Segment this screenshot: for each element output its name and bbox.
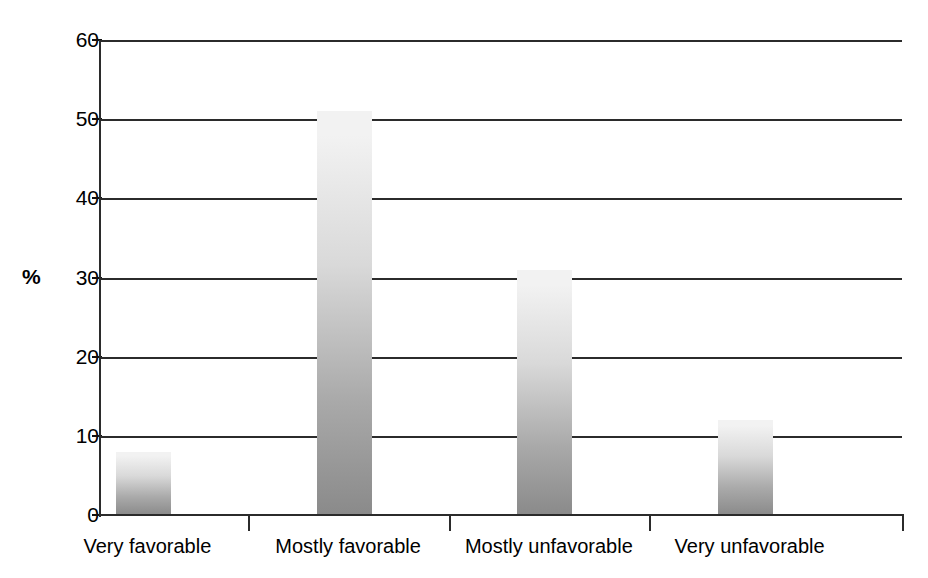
x-axis-tick-mark — [449, 516, 451, 531]
y-axis-unit-label: % — [22, 266, 41, 288]
x-axis-tick-mark — [649, 516, 651, 531]
x-axis-end-tick — [902, 516, 904, 531]
x-axis-category-label: Mostly favorable — [238, 534, 458, 558]
bar-chart: % 6050403020100 Very favorableMostly fav… — [0, 0, 928, 578]
gridline — [99, 357, 902, 359]
gridline — [99, 40, 902, 42]
bar — [517, 270, 572, 515]
gridline — [99, 119, 902, 121]
x-axis-category-label: Very favorable — [37, 534, 257, 558]
x-axis-category-label: Very unfavorable — [640, 534, 860, 558]
plot-area — [99, 40, 902, 515]
gridline — [99, 198, 902, 200]
x-axis-category-label: Mostly unfavorable — [439, 534, 659, 558]
y-axis: 6050403020100 — [45, 0, 99, 578]
x-axis-tick-mark — [248, 516, 250, 531]
bar — [317, 111, 372, 515]
gridline — [99, 278, 902, 280]
bar — [718, 420, 773, 515]
x-axis-line — [99, 514, 904, 516]
gridline — [99, 436, 902, 438]
bar — [116, 452, 171, 515]
